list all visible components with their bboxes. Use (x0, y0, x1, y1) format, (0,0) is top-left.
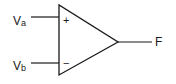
input-b-label: Vb (13, 59, 26, 73)
non-inverting-terminal-symbol: + (63, 14, 69, 26)
input-a-label: Va (13, 14, 26, 28)
inverting-terminal-symbol: − (63, 57, 69, 69)
op-amp-diagram: Va Vb + − F (0, 0, 176, 84)
output-label: F (155, 35, 162, 49)
